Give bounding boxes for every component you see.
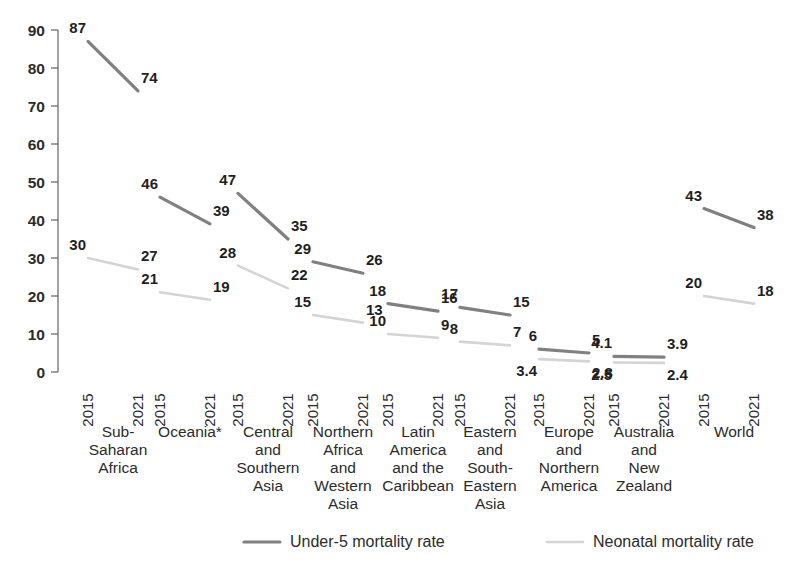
legend-label: Under-5 mortality rate [290,533,445,550]
y-axis: 9080706050403020100 [28,22,58,381]
x-axis-region-label: and [477,441,503,458]
data-point-label: 87 [69,19,86,36]
series-segment [614,356,664,357]
y-axis-tick-label: 60 [28,136,45,153]
data-point-label: 27 [141,247,158,264]
x-axis-region-label: Sub- [102,423,135,440]
series-segment [539,359,589,361]
series-under5 [88,41,754,357]
series-segment [313,315,363,323]
x-axis-year-label: 2015 [304,393,321,426]
data-point-label: 3.9 [667,335,688,352]
data-point-label: 46 [141,175,158,192]
series-segment [704,209,754,228]
x-axis-region-label: Zealand [616,477,672,494]
data-point-label: 7 [513,323,521,340]
x-axis-region-label: Asia [475,495,506,512]
x-axis-region-label: Eastern [463,423,516,440]
data-point-label: 39 [213,202,230,219]
x-axis-year-label: 2021 [201,393,218,426]
series-segment [160,292,210,300]
y-axis-tick-label: 80 [28,60,45,77]
series-segment [388,304,438,312]
x-axis-region-label: Saharan [89,441,148,458]
x-axis-year-label: 2015 [79,393,96,426]
x-axis-year-label: 2015 [229,393,246,426]
data-point-label: 28 [219,244,236,261]
series-neonatal [88,258,754,363]
x-axis-region-label: Central [243,423,293,440]
x-axis-year-label: 2021 [129,393,146,426]
data-point-label: 4.1 [591,334,612,351]
x-axis-region-label: Latin [401,423,435,440]
x-axis-region-label: Asia [328,495,359,512]
series-segment [313,262,363,273]
series-segment [88,258,138,269]
data-point-label: 74 [141,69,158,86]
series-segment [704,296,754,304]
y-axis-tick-label: 50 [28,174,45,191]
data-point-label: 10 [369,312,386,329]
x-axis-region-label: Asia [253,477,284,494]
data-point-label: 20 [685,274,702,291]
x-axis-year-label: 2015 [605,393,622,426]
chart-container: 9080706050403020100877446394735292618161… [0,0,786,562]
x-axis-region-label: Africa [98,459,138,476]
x-axis-year-label: 2021 [655,393,672,426]
x-axis-year-label: 2015 [530,393,547,426]
x-axis-region-label: America [390,441,447,458]
data-point-label: 3.4 [516,362,538,379]
x-axis-region-label: America [541,477,598,494]
data-point-label: 26 [366,251,383,268]
data-point-label: 9 [441,316,449,333]
data-point-label: 15 [513,293,530,310]
data-point-label: 30 [69,236,86,253]
x-axis-region-label: Northern [313,423,373,440]
data-point-label: 8 [450,320,458,337]
y-axis-tick-label: 90 [28,22,45,39]
x-axis-region-labels: Sub-SaharanAfricaOceania*CentralandSouth… [89,423,754,512]
x-axis-region-label: Australia [614,423,675,440]
data-point-label: 35 [291,217,308,234]
x-axis-year-label: 2015 [695,393,712,426]
data-point-label: 38 [757,206,774,223]
data-point-label: 21 [141,270,158,287]
data-point-label: 2.5 [591,366,612,383]
x-axis-region-label: and [556,441,582,458]
x-axis-year-label: 2021 [580,393,597,426]
series-segment [238,266,288,289]
chart-legend: Under-5 mortality rateNeonatal mortality… [244,533,754,550]
x-axis-year-label: 2015 [379,393,396,426]
data-point-label: 18 [369,282,386,299]
x-axis-region-label: Oceania* [158,423,222,440]
x-axis-region-label: and [330,459,356,476]
x-axis-region-label: Eastern [463,477,516,494]
mortality-rate-line-chart: 9080706050403020100877446394735292618161… [0,0,786,562]
series-segment [460,342,510,346]
series-segment [160,197,210,224]
x-axis-region-label: Caribbean [382,477,454,494]
y-axis-tick-label: 10 [28,326,45,343]
x-axis-region-label: and the [392,459,444,476]
data-point-label: 43 [685,187,702,204]
x-axis-region-label: Europe [544,423,594,440]
data-point-label: 15 [294,293,311,310]
x-axis-region-label: Southern [237,459,300,476]
x-axis-region-label: and [631,441,657,458]
data-labels-group: 877446394735292618161715654.13.943383027… [69,19,773,382]
data-point-label: 6 [529,327,537,344]
x-axis-year-label: 2021 [429,393,446,426]
x-axis-region-label: Western [314,477,371,494]
x-axis-year-label: 2021 [501,393,518,426]
x-axis-year-label: 2015 [151,393,168,426]
data-point-label: 18 [757,282,774,299]
data-point-label: 2.4 [667,366,689,383]
data-point-label: 22 [291,266,308,283]
y-axis-tick-label: 70 [28,98,45,115]
x-axis-year-label: 2015 [451,393,468,426]
data-point-label: 29 [294,240,311,257]
data-series-group [88,41,754,362]
x-axis-year-label: 2021 [745,393,762,426]
data-point-label: 19 [213,278,230,295]
x-axis-region-label: Africa [323,441,363,458]
